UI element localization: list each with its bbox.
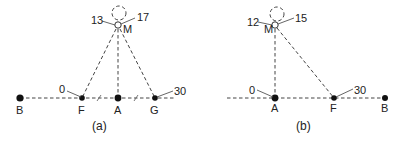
point-f-b bbox=[331, 95, 337, 101]
line-m-f-b bbox=[277, 28, 334, 98]
caption-a: (a) bbox=[92, 119, 107, 133]
loop-circle-a bbox=[112, 6, 126, 20]
label-f-b: F bbox=[330, 102, 337, 114]
point-g-a bbox=[152, 95, 158, 101]
diagram-canvas: 13 17 M 0 30 B F A G (a) 12 15 M 0 bbox=[0, 0, 401, 141]
line-m-g bbox=[120, 29, 155, 98]
leader-15 bbox=[278, 18, 294, 24]
caption-b: (b) bbox=[296, 119, 311, 133]
value-0-a: 0 bbox=[59, 83, 65, 95]
label-m-b: M bbox=[264, 23, 273, 35]
value-30-a: 30 bbox=[174, 85, 186, 97]
line-m-f bbox=[82, 29, 116, 98]
leader-30-a bbox=[157, 91, 173, 97]
point-b-b bbox=[382, 95, 388, 101]
label-f-a: F bbox=[78, 104, 85, 116]
leader-0-b bbox=[257, 90, 273, 97]
figure-a: 13 17 M 0 30 B F A G (a) bbox=[16, 6, 186, 133]
loop-circle-b bbox=[270, 7, 284, 21]
value-30-b: 30 bbox=[354, 84, 366, 96]
figure-b: 12 15 M 0 30 A F B (b) bbox=[227, 7, 388, 133]
value-13: 13 bbox=[91, 14, 103, 26]
point-a-b bbox=[272, 95, 279, 102]
leader-13 bbox=[102, 21, 115, 25]
label-g-a: G bbox=[150, 104, 159, 116]
point-b-a bbox=[16, 94, 23, 101]
label-b-b: B bbox=[381, 102, 388, 114]
label-a-b: A bbox=[271, 102, 279, 114]
point-a-a bbox=[115, 95, 122, 102]
point-f-a bbox=[79, 95, 85, 101]
leader-30-b bbox=[336, 89, 353, 97]
label-b-a: B bbox=[16, 104, 23, 116]
value-12: 12 bbox=[247, 16, 259, 28]
leader-0-a bbox=[67, 91, 81, 97]
label-m-a: M bbox=[123, 23, 132, 35]
value-17: 17 bbox=[137, 11, 149, 23]
value-15: 15 bbox=[295, 12, 307, 24]
value-0-b: 0 bbox=[249, 84, 255, 96]
label-a-a: A bbox=[114, 104, 122, 116]
point-m-a bbox=[115, 22, 121, 28]
